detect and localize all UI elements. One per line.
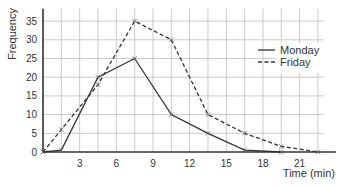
x-tick-label: 15 bbox=[221, 158, 233, 169]
x-axis-label: Time (min) bbox=[283, 167, 335, 179]
y-tick-labels: 05101520253035 bbox=[26, 16, 38, 158]
legend-label-friday: Friday bbox=[280, 56, 311, 68]
x-tick-labels: 36912151821 bbox=[77, 158, 306, 169]
y-axis-label: Frequency bbox=[6, 8, 18, 60]
legend: MondayFriday bbox=[258, 43, 328, 73]
y-tick-label: 5 bbox=[31, 128, 37, 139]
legend-label-monday: Monday bbox=[280, 44, 320, 56]
x-tick-label: 3 bbox=[77, 158, 83, 169]
series-line-friday bbox=[43, 21, 318, 152]
x-tick-label: 18 bbox=[257, 158, 269, 169]
y-tick-label: 0 bbox=[31, 147, 37, 158]
data-series bbox=[41, 19, 320, 154]
y-tick-label: 25 bbox=[26, 53, 38, 64]
series-line-monday bbox=[43, 59, 281, 153]
x-tick-label: 9 bbox=[150, 158, 156, 169]
x-tick-label: 12 bbox=[184, 158, 196, 169]
y-tick-label: 15 bbox=[26, 90, 38, 101]
x-tick-label: 6 bbox=[114, 158, 120, 169]
grid bbox=[43, 9, 324, 152]
y-tick-label: 10 bbox=[26, 109, 38, 120]
y-tick-label: 35 bbox=[26, 16, 38, 27]
y-tick-label: 20 bbox=[26, 72, 38, 83]
y-tick-label: 30 bbox=[26, 34, 38, 45]
frequency-polygon-chart: 05101520253035 36912151821 Frequency Tim… bbox=[0, 0, 343, 186]
